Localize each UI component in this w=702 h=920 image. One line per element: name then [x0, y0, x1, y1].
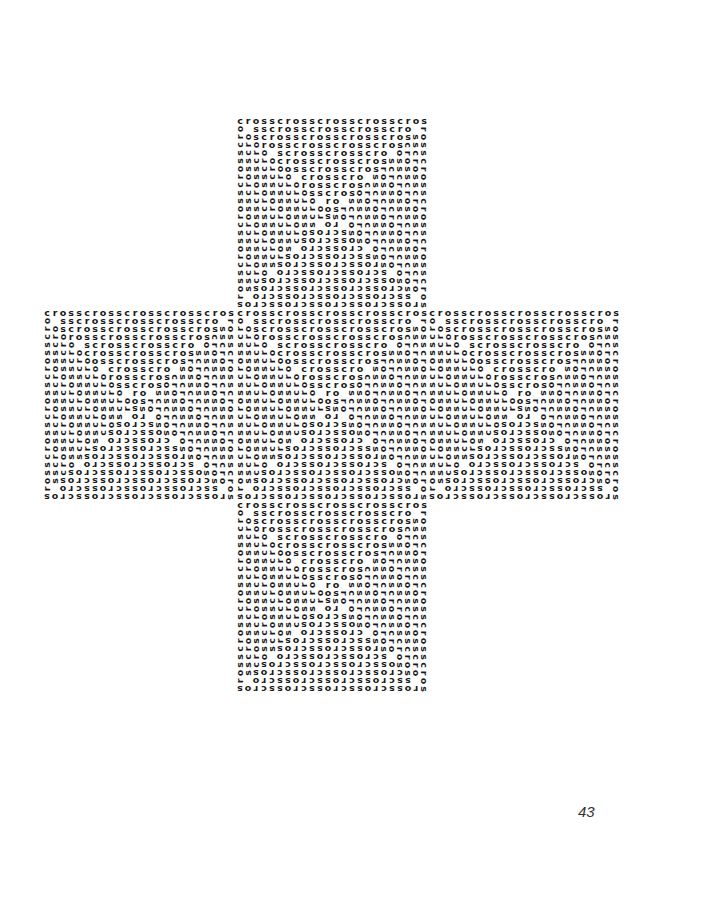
- letter: o: [292, 373, 300, 381]
- letter: s: [396, 685, 404, 693]
- letter: r: [67, 333, 75, 341]
- letter: o: [420, 677, 428, 685]
- letter: o: [268, 333, 276, 341]
- letter: r: [300, 181, 308, 189]
- letter: r: [260, 525, 268, 533]
- letter: r: [452, 333, 460, 341]
- letter: s: [420, 685, 428, 693]
- letter: s: [227, 461, 235, 469]
- letter: o: [268, 157, 276, 165]
- letter: s: [420, 373, 428, 381]
- letter: s: [580, 493, 588, 501]
- letter: o: [404, 301, 412, 309]
- letter: s: [236, 301, 244, 309]
- letter: s: [252, 325, 260, 333]
- cross-block-left: crosscrosscrosscrosscrososscrosscrosscro…: [43, 309, 235, 501]
- letter: o: [252, 141, 260, 149]
- letter: o: [420, 365, 428, 373]
- letter: s: [115, 381, 123, 389]
- letter: o: [364, 165, 372, 173]
- letter: o: [508, 397, 516, 405]
- letter: c: [340, 493, 348, 501]
- letter: c: [227, 389, 235, 397]
- letter: o: [316, 589, 324, 597]
- letter: s: [420, 493, 428, 501]
- letter: r: [260, 141, 268, 149]
- letter: o: [260, 533, 268, 541]
- letter: s: [308, 381, 316, 389]
- letter: o: [171, 493, 179, 501]
- letter: s: [195, 493, 203, 501]
- letter: o: [420, 517, 428, 525]
- letter: o: [308, 581, 316, 589]
- letter: s: [99, 357, 107, 365]
- letter: s: [292, 165, 300, 173]
- letter: s: [83, 493, 91, 501]
- letter: o: [195, 333, 203, 341]
- letter: o: [276, 165, 284, 173]
- letter: o: [227, 485, 235, 493]
- letter: o: [612, 445, 620, 453]
- letter: o: [420, 637, 428, 645]
- letter: s: [356, 685, 364, 693]
- letter: s: [227, 413, 235, 421]
- letter: c: [260, 685, 268, 693]
- letter: o: [604, 309, 612, 317]
- letter: c: [612, 429, 620, 437]
- letter: r: [372, 685, 380, 693]
- letter: o: [364, 493, 372, 501]
- letter: o: [612, 365, 620, 373]
- letter: r: [292, 493, 300, 501]
- letter: s: [420, 613, 428, 621]
- letter: s: [420, 565, 428, 573]
- letter: c: [484, 429, 492, 437]
- letter: o: [284, 685, 292, 693]
- letter: r: [420, 165, 428, 173]
- letter: c: [147, 493, 155, 501]
- letter: r: [420, 245, 428, 253]
- letter: s: [227, 493, 235, 501]
- letter: o: [492, 381, 500, 389]
- letter: s: [612, 493, 620, 501]
- letter: r: [612, 397, 620, 405]
- letter: o: [244, 325, 252, 333]
- letter: o: [420, 133, 428, 141]
- letter: s: [420, 141, 428, 149]
- letter: o: [516, 493, 524, 501]
- letter: r: [332, 685, 340, 693]
- letter: o: [147, 381, 155, 389]
- letter: s: [484, 357, 492, 365]
- letter: o: [51, 325, 59, 333]
- letter: r: [292, 685, 300, 693]
- letter: s: [155, 493, 163, 501]
- letter: c: [83, 349, 91, 357]
- letter: s: [420, 573, 428, 581]
- letter: o: [236, 509, 244, 517]
- letter: o: [268, 525, 276, 533]
- letter: s: [252, 517, 260, 525]
- letter: r: [332, 301, 340, 309]
- letter: o: [268, 141, 276, 149]
- letter: c: [420, 541, 428, 549]
- letter: o: [340, 189, 348, 197]
- letter: s: [420, 333, 428, 341]
- letter: o: [171, 357, 179, 365]
- letter: s: [268, 453, 276, 461]
- letter: r: [420, 589, 428, 597]
- letter: s: [308, 493, 316, 501]
- letter: o: [340, 381, 348, 389]
- letter: c: [236, 309, 244, 317]
- letter: r: [420, 549, 428, 557]
- letter: s: [508, 493, 516, 501]
- letter: c: [276, 349, 284, 357]
- letter: s: [227, 373, 235, 381]
- letter: o: [324, 685, 332, 693]
- letter: o: [420, 485, 428, 493]
- letter: s: [420, 381, 428, 389]
- letter: s: [227, 381, 235, 389]
- letter: s: [244, 477, 252, 485]
- letter: s: [163, 493, 171, 501]
- letter: o: [412, 309, 420, 317]
- letter: o: [436, 325, 444, 333]
- letter: r: [139, 493, 147, 501]
